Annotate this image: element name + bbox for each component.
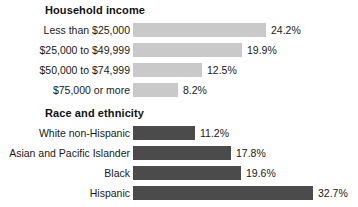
bar-row: $25,000 to $49,99919.9% xyxy=(0,41,358,61)
bar xyxy=(133,146,231,160)
bar-value-label: 11.2% xyxy=(200,127,229,140)
bar xyxy=(133,43,242,57)
bar-value-label: 19.6% xyxy=(246,167,276,180)
bar-category-label: $50,000 to $74,999 xyxy=(0,64,130,77)
bar-row: Hispanic32.7% xyxy=(0,184,358,204)
bar xyxy=(133,126,195,140)
bar-row: Less than $25,00024.2% xyxy=(0,21,358,41)
bar-row: Black19.6% xyxy=(0,164,358,184)
bar-value-label: 32.7% xyxy=(318,187,348,200)
bar-row: White non-Hispanic11.2% xyxy=(0,124,358,144)
bar-category-label: Less than $25,000 xyxy=(0,24,130,37)
panel-title-household-income: Household income xyxy=(45,4,145,16)
bar-row: Asian and Pacific Islander17.8% xyxy=(0,144,358,164)
bar xyxy=(133,23,266,37)
panel-title-race-and-ethnicity: Race and ethnicity xyxy=(45,107,144,119)
bar xyxy=(133,83,178,97)
bar-category-label: Black xyxy=(0,167,130,180)
bar-value-label: 12.5% xyxy=(207,64,237,77)
bar-rows-race-and-ethnicity: White non-Hispanic11.2%Asian and Pacific… xyxy=(0,124,358,204)
bar-rows-household-income: Less than $25,00024.2%$25,000 to $49,999… xyxy=(0,21,358,101)
bar-chart-figure: Household income Less than $25,00024.2%$… xyxy=(0,0,358,207)
bar-category-label: $75,000 or more xyxy=(0,84,130,97)
bar-category-label: White non-Hispanic xyxy=(0,127,130,140)
bar-category-label: $25,000 to $49,999 xyxy=(0,44,130,57)
bar-row: $50,000 to $74,99912.5% xyxy=(0,61,358,81)
bar xyxy=(133,186,313,200)
bar-category-label: Asian and Pacific Islander xyxy=(0,147,130,160)
bar-value-label: 19.9% xyxy=(247,44,277,57)
bar-value-label: 8.2% xyxy=(183,84,207,97)
bar xyxy=(133,63,202,77)
bar-value-label: 24.2% xyxy=(271,24,301,37)
bar xyxy=(133,166,241,180)
bar-category-label: Hispanic xyxy=(0,187,130,200)
bar-value-label: 17.8% xyxy=(236,147,266,160)
bar-row: $75,000 or more8.2% xyxy=(0,81,358,101)
